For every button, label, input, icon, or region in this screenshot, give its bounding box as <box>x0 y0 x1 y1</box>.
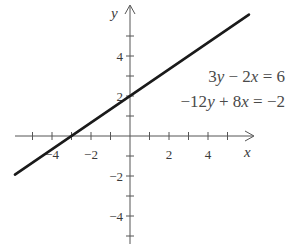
chart: −4−224 x 42−2−4 y 3y − 2x = 6 −12y + 8x … <box>0 0 291 244</box>
x-tick-label: −2 <box>84 147 98 162</box>
y-tick-label: 4 <box>117 49 124 64</box>
x-tick-labels: −4−224 <box>45 147 212 162</box>
x-axis: −4−224 x <box>15 131 254 162</box>
y-tick-label: −2 <box>109 169 123 184</box>
equation-label-1: 3y − 2x = 6 <box>208 67 285 86</box>
x-tick-label: 2 <box>166 147 173 162</box>
equation-annotations: 3y − 2x = 6 −12y + 8x = −2 <box>181 67 285 111</box>
y-axis-label: y <box>109 5 118 21</box>
x-axis-label: x <box>243 144 251 160</box>
y-axis: 42−2−4 y <box>109 5 135 244</box>
y-tick-label: −4 <box>109 209 123 224</box>
equation-label-2: −12y + 8x = −2 <box>181 92 285 111</box>
x-tick-label: 4 <box>205 147 212 162</box>
